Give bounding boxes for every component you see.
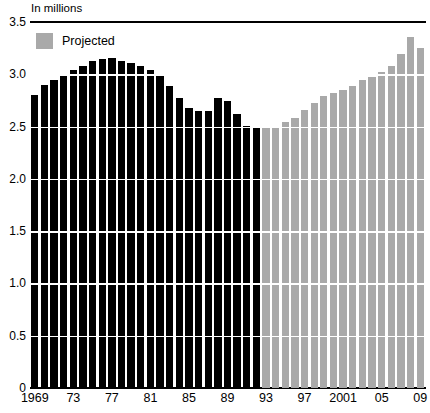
bar bbox=[99, 59, 106, 388]
bar bbox=[31, 95, 38, 388]
gridline bbox=[30, 283, 425, 285]
x-axis-tick: 77 bbox=[105, 391, 119, 405]
bar bbox=[339, 90, 346, 388]
x-axis-tick-labels: 19697377818589939720010509 bbox=[30, 391, 426, 411]
bar bbox=[166, 86, 173, 388]
gridline bbox=[30, 336, 425, 338]
bar bbox=[330, 93, 337, 388]
bar bbox=[195, 111, 202, 388]
bar bbox=[349, 86, 356, 388]
y-axis-tick-labels: 3.53.02.52.01.51.00.50 bbox=[0, 22, 28, 388]
bar bbox=[176, 98, 183, 388]
bar bbox=[243, 126, 250, 388]
bar bbox=[89, 61, 96, 388]
y-axis-tick: 2.5 bbox=[0, 121, 26, 133]
chart: In millions 3.53.02.52.01.51.00.50 19697… bbox=[0, 0, 430, 413]
x-axis-tick: 89 bbox=[221, 391, 235, 405]
gridline bbox=[30, 179, 425, 181]
axis-unit-label: In millions bbox=[31, 2, 82, 15]
legend-label-projected: Projected bbox=[62, 34, 115, 48]
y-axis-tick: 1.5 bbox=[0, 225, 26, 237]
bar bbox=[70, 70, 77, 388]
bar bbox=[127, 63, 134, 388]
y-axis-tick: 1.0 bbox=[0, 277, 26, 289]
y-axis-tick: 3.0 bbox=[0, 68, 26, 80]
bar bbox=[368, 77, 375, 388]
bar bbox=[378, 72, 385, 388]
x-axis-tick: 73 bbox=[66, 391, 80, 405]
bar bbox=[41, 85, 48, 388]
bar bbox=[253, 128, 260, 388]
bar bbox=[291, 118, 298, 388]
x-axis-tick: 85 bbox=[182, 391, 196, 405]
bar bbox=[388, 66, 395, 388]
x-axis-tick: 1969 bbox=[21, 391, 49, 405]
bar bbox=[118, 61, 125, 388]
bar bbox=[262, 127, 269, 388]
legend-swatch-projected bbox=[36, 33, 53, 49]
bar bbox=[233, 114, 240, 388]
y-axis-tick: 2.0 bbox=[0, 173, 26, 185]
bar bbox=[397, 54, 404, 388]
gridline bbox=[30, 127, 425, 129]
bar bbox=[108, 58, 115, 388]
bar bbox=[224, 101, 231, 388]
bar-series-group bbox=[30, 22, 425, 388]
bar bbox=[282, 122, 289, 388]
bar bbox=[147, 70, 154, 388]
y-axis-tick: 3.5 bbox=[0, 16, 26, 28]
x-axis-tick: 81 bbox=[143, 391, 157, 405]
bar bbox=[301, 110, 308, 388]
bar bbox=[137, 66, 144, 388]
x-axis-tick: 09 bbox=[413, 391, 427, 405]
bar bbox=[214, 98, 221, 388]
x-axis-tick: 2001 bbox=[329, 391, 357, 405]
gridline bbox=[30, 74, 425, 76]
x-axis-tick: 93 bbox=[259, 391, 273, 405]
x-axis-tick: 97 bbox=[298, 391, 312, 405]
legend: Projected bbox=[36, 33, 115, 49]
bar bbox=[311, 103, 318, 388]
y-axis-tick: 0.5 bbox=[0, 330, 26, 342]
bar bbox=[79, 66, 86, 388]
x-axis-tick: 05 bbox=[375, 391, 389, 405]
bar bbox=[272, 128, 279, 388]
bar bbox=[205, 111, 212, 388]
bar bbox=[185, 108, 192, 388]
bar bbox=[320, 96, 327, 388]
plot-area bbox=[30, 22, 425, 388]
gridline bbox=[30, 231, 425, 233]
